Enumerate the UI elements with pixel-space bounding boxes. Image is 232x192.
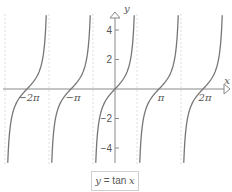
x-tick-label: 2π <box>198 92 212 103</box>
y-tick-label: −2 <box>101 113 113 124</box>
x-axis-label: x <box>224 75 230 86</box>
legend-eq: = tan <box>101 175 129 186</box>
tan-chart: xy42−2−4−2π−ππ2π <box>0 0 232 192</box>
x-tick-label: π <box>157 92 165 103</box>
y-tick-label: 4 <box>106 25 112 36</box>
x-tick-label: −2π <box>18 92 40 103</box>
y-axis-label: y <box>123 3 130 14</box>
legend-var: x <box>129 175 135 186</box>
chart-legend: y = tan x <box>91 171 139 191</box>
y-axis-arrow-icon <box>110 12 120 18</box>
x-tick-label: −π <box>66 92 81 103</box>
y-tick-label: 2 <box>106 54 112 65</box>
y-tick-label: −4 <box>101 143 113 154</box>
